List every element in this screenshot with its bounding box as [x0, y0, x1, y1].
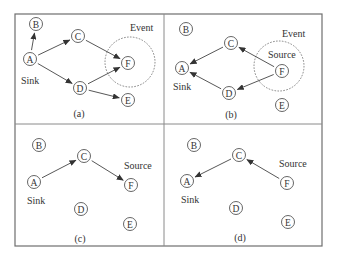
node-label: C — [236, 151, 242, 161]
node-D: D — [230, 202, 243, 215]
node-label: D — [77, 84, 84, 94]
edge-F-to-D — [237, 75, 273, 90]
node-A: A — [181, 175, 194, 188]
node-label: A — [179, 64, 186, 74]
node-F: F — [125, 179, 138, 192]
event-label: Event — [282, 28, 306, 39]
node-B: B — [180, 23, 193, 36]
node-label: B — [191, 141, 197, 151]
source-label: Source — [279, 158, 307, 169]
edge-D-to-E — [89, 90, 120, 98]
edge-D-to-F — [88, 67, 120, 84]
panel-caption: (a) — [73, 108, 84, 120]
node-D: D — [75, 203, 88, 216]
panel-caption: (c) — [74, 233, 85, 245]
node-D: D — [74, 82, 87, 95]
node-B: B — [30, 18, 43, 31]
node-label: F — [284, 179, 289, 189]
node-C: C — [233, 149, 246, 162]
source-label: Source — [268, 49, 296, 60]
edge-D-to-A — [190, 72, 221, 89]
sink-label: Sink — [173, 81, 191, 92]
node-E: E — [122, 94, 135, 107]
node-label: B — [36, 141, 42, 151]
sink-label: Sink — [21, 75, 39, 86]
edge-A-to-C — [38, 40, 70, 55]
node-E: E — [276, 99, 289, 112]
node-label: D — [233, 204, 240, 214]
edge-F-to-C — [247, 160, 279, 179]
event-label: Event — [130, 22, 154, 33]
node-D: D — [223, 87, 236, 100]
node-label: A — [184, 177, 191, 187]
edge-A-to-D — [38, 64, 72, 84]
node-label: F — [128, 181, 133, 191]
node-label: A — [31, 178, 38, 188]
node-C: C — [225, 37, 238, 50]
node-label: C — [228, 39, 234, 49]
node-label: E — [279, 101, 285, 111]
node-label: A — [27, 55, 34, 65]
node-B: B — [33, 139, 46, 152]
node-label: F — [125, 59, 130, 69]
node-label: C — [81, 152, 87, 162]
panel-d: BACDFESourceSink(d) — [181, 139, 308, 245]
node-B: B — [188, 139, 201, 152]
node-label: D — [226, 89, 233, 99]
edge-C-to-F — [86, 40, 120, 58]
node-label: D — [78, 205, 85, 215]
panel-c: BACDFESourceSink(c) — [27, 139, 152, 246]
sink-label: Sink — [181, 194, 199, 205]
panel-b: BACDFEEventSourceSink(b) — [173, 23, 306, 122]
node-C: C — [72, 30, 85, 43]
node-label: E — [285, 218, 291, 228]
node-label: F — [279, 67, 284, 77]
edge-C-to-F — [92, 161, 124, 181]
panel-a: BACDFEEventSink(a) — [21, 18, 155, 121]
node-F: F — [122, 57, 135, 70]
node-F: F — [281, 177, 294, 190]
edge-C-to-A — [190, 47, 223, 64]
edge-A-to-B — [32, 33, 35, 50]
node-C: C — [78, 150, 91, 163]
node-label: E — [125, 96, 131, 106]
edge-A-to-C — [42, 160, 76, 178]
node-A: A — [176, 62, 189, 75]
node-A: A — [28, 176, 41, 189]
edge-C-to-A — [195, 159, 231, 177]
node-label: B — [183, 25, 189, 35]
node-label: E — [127, 220, 133, 230]
sink-label: Sink — [27, 195, 45, 206]
node-E: E — [282, 216, 295, 229]
node-A: A — [24, 53, 37, 66]
panel-caption: (d) — [234, 232, 246, 244]
node-F: F — [276, 65, 289, 78]
source-label: Source — [124, 160, 152, 171]
node-label: B — [33, 20, 39, 30]
network-diagram: BACDFEEventSink(a)BACDFEEventSourceSink(… — [0, 0, 337, 260]
node-E: E — [124, 218, 137, 231]
panel-caption: (b) — [225, 109, 237, 121]
node-label: C — [75, 32, 81, 42]
